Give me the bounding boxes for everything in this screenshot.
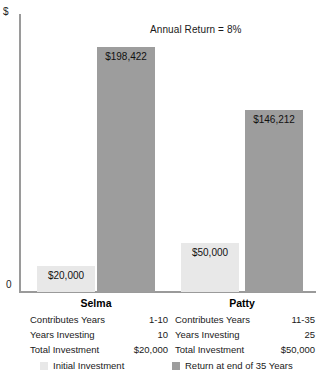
row-label-years-investing: Years Investing xyxy=(30,327,95,342)
y-axis-line xyxy=(19,14,21,292)
row-value-selma-years-investing: 10 xyxy=(157,327,168,342)
detail-table-patty: Contributes Years 11-35 Years Investing … xyxy=(175,312,315,357)
table-row: Contributes Years 1-10 xyxy=(30,312,168,327)
row-label-years-investing: Years Investing xyxy=(175,327,240,342)
bar-label-selma-initial: $20,000 xyxy=(37,270,95,281)
bar-label-patty-initial: $50,000 xyxy=(181,247,239,258)
investment-comparison-chart: $ 0 Annual Return = 8% $20,000 $198,422 … xyxy=(0,0,321,379)
row-value-patty-total-investment: $50,000 xyxy=(281,342,315,357)
table-row: Total Investment $50,000 xyxy=(175,342,315,357)
table-row: Contributes Years 11-35 xyxy=(175,312,315,327)
bar-label-selma-return: $198,422 xyxy=(97,51,155,62)
y-axis-zero-label: 0 xyxy=(6,280,12,290)
bar-selma-initial-investment: $20,000 xyxy=(37,266,95,292)
row-label-total-investment: Total Investment xyxy=(30,342,99,357)
row-label-contributes-years: Contributes Years xyxy=(30,312,105,327)
annual-return-annotation: Annual Return = 8% xyxy=(150,24,242,35)
y-axis-unit-label: $ xyxy=(3,7,9,17)
row-label-total-investment: Total Investment xyxy=(175,342,244,357)
legend-label-return: Return at end of 35 Years xyxy=(185,360,293,372)
row-label-contributes-years: Contributes Years xyxy=(175,312,250,327)
plot-area: $ 0 Annual Return = 8% $20,000 $198,422 … xyxy=(0,0,321,296)
bar-patty-return: $146,212 xyxy=(245,110,303,292)
table-row: Years Investing 10 xyxy=(30,327,168,342)
legend-label-initial-investment: Initial Investment xyxy=(53,360,124,372)
table-row: Years Investing 25 xyxy=(175,327,315,342)
group-label-selma: Selma xyxy=(37,297,155,309)
detail-table-selma: Contributes Years 1-10 Years Investing 1… xyxy=(30,312,168,357)
row-value-selma-contributes-years: 1-10 xyxy=(149,312,168,327)
bar-selma-return: $198,422 xyxy=(97,47,155,292)
group-label-patty: Patty xyxy=(181,297,303,309)
table-row: Total Investment $20,000 xyxy=(30,342,168,357)
row-value-selma-total-investment: $20,000 xyxy=(134,342,168,357)
legend-swatch-icon-return xyxy=(172,362,180,370)
row-value-patty-years-investing: 25 xyxy=(304,327,315,342)
legend-item-return: Return at end of 35 Years xyxy=(172,360,293,372)
row-value-patty-contributes-years: 11-35 xyxy=(291,312,315,327)
chart-legend: Initial Investment Return at end of 35 Y… xyxy=(0,360,321,376)
bar-label-patty-return: $146,212 xyxy=(245,114,303,125)
legend-item-initial-investment: Initial Investment xyxy=(40,360,124,372)
bar-patty-initial-investment: $50,000 xyxy=(181,243,239,292)
legend-swatch-icon-initial xyxy=(40,362,48,370)
